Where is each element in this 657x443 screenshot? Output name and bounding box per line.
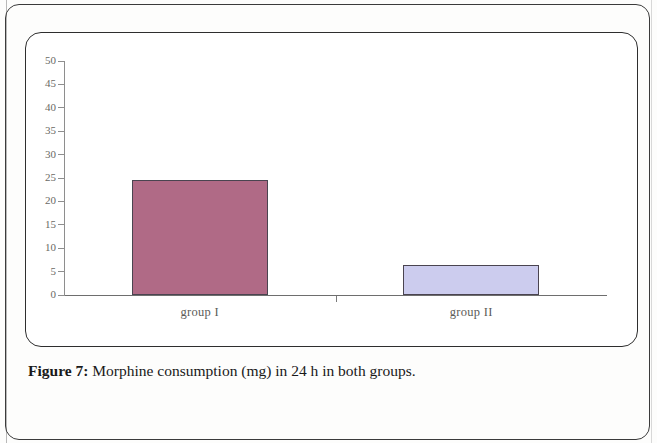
y-axis-tick-label: 50 bbox=[26, 55, 56, 66]
y-axis-tick-label-text: 30 bbox=[32, 149, 56, 160]
y-axis-tick-label-text: 35 bbox=[32, 125, 56, 136]
y-axis-tick-label: 35 bbox=[26, 125, 56, 136]
y-axis-tick bbox=[58, 295, 65, 296]
y-axis-tick bbox=[58, 201, 65, 202]
y-axis-tick-label-text: 10 bbox=[32, 242, 56, 253]
bar-group-ii bbox=[403, 265, 539, 295]
y-axis-tick-label-text: 5 bbox=[32, 266, 56, 277]
y-axis-tick-label: 0 bbox=[26, 289, 56, 300]
scanned-page: 05101520253035404550 group Igroup II Fig… bbox=[0, 0, 657, 443]
y-axis-tick-label-text: 20 bbox=[32, 195, 56, 206]
y-axis-tick-label-text: 15 bbox=[32, 219, 56, 230]
y-axis-tick-label: 30 bbox=[26, 149, 56, 160]
page-edge-artifact-right bbox=[651, 0, 652, 443]
y-axis-tick-label: 10 bbox=[26, 242, 56, 253]
y-axis-tick bbox=[58, 61, 65, 62]
figure-number-label: Figure 7: bbox=[28, 362, 88, 379]
y-axis-tick bbox=[58, 178, 65, 179]
y-axis-tick bbox=[58, 224, 65, 225]
y-axis-tick-label-text: 45 bbox=[32, 78, 56, 89]
y-axis-tick-label: 5 bbox=[26, 266, 56, 277]
y-axis-tick-label: 25 bbox=[26, 172, 56, 183]
x-axis-category-label: group I bbox=[64, 305, 336, 320]
y-axis-tick-label-text: 50 bbox=[32, 55, 56, 66]
bar-group-i bbox=[132, 180, 268, 295]
y-axis-tick bbox=[58, 131, 65, 132]
y-axis-tick-label-text: 40 bbox=[32, 102, 56, 113]
x-axis-tick bbox=[336, 296, 337, 302]
bar-chart-plot-area: 05101520253035404550 group Igroup II bbox=[26, 33, 639, 348]
y-axis-tick-label: 20 bbox=[26, 195, 56, 206]
figure-chart-box: 05101520253035404550 group Igroup II bbox=[25, 32, 638, 347]
y-axis-tick bbox=[58, 248, 65, 249]
figure-caption: Figure 7: Morphine consumption (mg) in 2… bbox=[28, 361, 628, 381]
y-axis-tick-label: 45 bbox=[26, 78, 56, 89]
y-axis-tick bbox=[58, 107, 65, 108]
y-axis-tick-label-text: 0 bbox=[32, 289, 56, 300]
y-axis-tick-label: 40 bbox=[26, 102, 56, 113]
y-axis-tick-label-text: 25 bbox=[32, 172, 56, 183]
y-axis-tick bbox=[58, 154, 65, 155]
figure-caption-text: Morphine consumption (mg) in 24 h in bot… bbox=[88, 362, 415, 379]
y-axis-tick-label: 15 bbox=[26, 219, 56, 230]
y-axis-tick bbox=[58, 271, 65, 272]
y-axis-tick bbox=[58, 84, 65, 85]
x-axis-category-label: group II bbox=[336, 305, 608, 320]
